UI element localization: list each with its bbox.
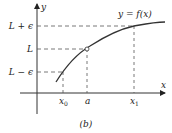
- tick-label-x1: x1: [130, 96, 139, 107]
- curve-label: y = f(x): [117, 9, 152, 19]
- y-axis-label: y: [40, 2, 47, 12]
- figure-caption: (b): [80, 119, 93, 129]
- tick-label-l-minus-eps: L − ϵ: [8, 67, 33, 77]
- tick-label-l-plus-eps: L + ϵ: [8, 21, 33, 31]
- tick-label-l: L: [26, 44, 33, 54]
- x-axis-label: x: [161, 80, 166, 90]
- limit-diagram: y x y = f(x) L + ϵ L L − ϵ x0 a x1 (b): [0, 0, 172, 133]
- open-point: [85, 47, 89, 51]
- tick-label-a: a: [85, 96, 90, 106]
- function-curve: [56, 22, 165, 82]
- tick-label-x0: x0: [59, 96, 68, 107]
